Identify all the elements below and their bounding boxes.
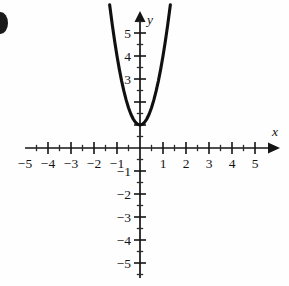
x-tick-label: −4	[41, 156, 56, 171]
y-tick-label: 5	[124, 26, 131, 41]
y-tick-label: −2	[117, 187, 131, 202]
x-tick-label: 4	[229, 156, 236, 171]
x-tick-label: −5	[18, 156, 33, 171]
y-axis	[135, 11, 146, 278]
y-axis-arrow-icon	[135, 11, 146, 22]
y-tick-label: 4	[124, 49, 131, 64]
x-tick-label: −3	[64, 156, 79, 171]
x-axis-arrow-icon	[268, 143, 280, 154]
coordinate-plane: −5−4−3−2−112345543−1−2−3−4−5 x y	[0, 0, 289, 286]
x-tick-label: 3	[206, 156, 213, 171]
x-tick-label: 2	[183, 156, 190, 171]
x-tick-label: 1	[160, 156, 167, 171]
x-axis-label: x	[271, 124, 278, 139]
x-axis	[25, 143, 280, 154]
graph-figure: −5−4−3−2−112345543−1−2−3−4−5 x y	[0, 0, 289, 286]
y-tick-label: −5	[117, 256, 132, 271]
y-tick-label: 3	[124, 72, 131, 87]
y-tick-label: −3	[117, 210, 132, 225]
x-tick-label: 5	[252, 156, 259, 171]
y-tick-label: −1	[117, 164, 131, 179]
x-tick-label: −2	[87, 156, 101, 171]
y-tick-label: −4	[117, 233, 132, 248]
y-axis-label: y	[145, 12, 153, 27]
